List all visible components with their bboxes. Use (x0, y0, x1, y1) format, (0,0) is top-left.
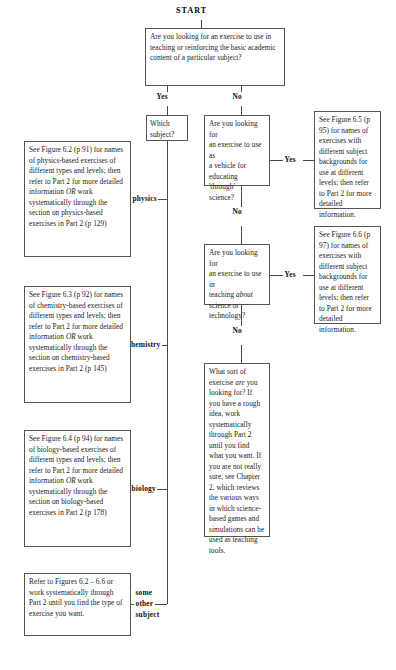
edge-q2-no-bottom (241, 226, 242, 244)
fig65-text: See Figure 6.5 (p 95) for names of exerc… (319, 115, 376, 220)
q2-line-2: an exercise to use as (209, 140, 265, 161)
edge-label-chemistry: chemistry (126, 340, 162, 349)
outcome-box-figure-6-5: See Figure 6.5 (p 95) for names of exerc… (314, 111, 381, 209)
q3-line-3-emphasis: about (236, 290, 253, 299)
edge-label-other-line-2: other (134, 599, 155, 608)
outcome-box-biology: See Figure 6.4 (p 94) for names of biolo… (24, 430, 131, 547)
which-subject-text: Which subject? (150, 119, 184, 140)
q3-line-2: an exercise to use in (209, 269, 265, 290)
question-box-teaching-about-science: Are you looking for an exercise to use i… (204, 244, 270, 305)
edge-yes-to-which (167, 106, 168, 115)
edge-label-biology: biology (130, 484, 157, 493)
edge-label-yes-3: Yes (283, 270, 297, 279)
outcome-box-figure-6-6: See Figure 6.6 (p 97) for names of exerc… (314, 226, 381, 324)
outcome-box-other-subject: Refer to Figures 6.2 – 6.6 or work syste… (24, 573, 131, 636)
physics-text-emphasis: OR (66, 187, 76, 196)
edge-subject-spine (167, 141, 168, 604)
edge-label-other-line-3: subject (134, 610, 161, 619)
start-title: START (176, 6, 207, 15)
decision-box-which-subject: Which subject? (146, 115, 188, 141)
chemistry-text-emphasis: OR (66, 332, 76, 341)
chemistry-text: See Figure 6.3 (p 92) for names of chemi… (29, 290, 126, 374)
q3-line-1: Are you looking for (209, 248, 265, 269)
edge-no-to-q2 (241, 106, 242, 115)
question-box-subject-content: Are you looking for an exercise to use i… (145, 28, 285, 86)
edge-label-no-3: No (231, 326, 243, 335)
flowchart-canvas: START Are you looking for an exercise to… (0, 0, 396, 670)
q3-line-3: teaching about (209, 290, 265, 301)
edge-label-other-line-1: some (134, 588, 154, 597)
edge-start-to-q1 (201, 20, 202, 28)
edge-q3-no-bottom (241, 345, 242, 363)
outcome-box-final-guidance: What sort of exercise are you looking fo… (204, 363, 270, 537)
outcome-box-physics: See Figure 6.2 (p 91) for names of physi… (24, 141, 131, 257)
final-text: What sort of exercise are you looking fo… (209, 367, 265, 556)
edge-label-no-2: No (231, 207, 243, 216)
q2-line-4: educating 'through' (209, 172, 265, 193)
edge-label-yes-1: Yes (155, 92, 169, 101)
final-text-emphasis: are (235, 378, 245, 387)
question-box-educating-through-science: Are you looking for an exercise to use a… (204, 115, 270, 186)
q1-text: Are you looking for an exercise to use i… (150, 32, 280, 64)
edge-label-no-1: No (231, 92, 243, 101)
final-text-part-2: you looking for? If you have a rough ide… (209, 378, 264, 555)
q3-line-3-pre: teaching (209, 290, 236, 299)
other-text: Refer to Figures 6.2 – 6.6 or work syste… (29, 577, 126, 619)
q2-line-3: a vehicle for (209, 161, 265, 172)
biology-text: See Figure 6.4 (p 94) for names of biolo… (29, 434, 126, 518)
edge-label-yes-2: Yes (283, 155, 297, 164)
q2-line-5: science? (209, 193, 265, 204)
biology-text-emphasis: OR (66, 476, 76, 485)
q3-line-5: technology? (209, 311, 265, 322)
q2-line-1: Are you looking for (209, 119, 265, 140)
physics-text: See Figure 6.2 (p 91) for names of physi… (29, 145, 126, 229)
fig66-text: See Figure 6.6 (p 97) for names of exerc… (319, 230, 376, 335)
outcome-box-chemistry: See Figure 6.3 (p 92) for names of chemi… (24, 286, 131, 403)
edge-label-physics: physics (131, 194, 158, 203)
q3-line-4: science or (209, 301, 265, 312)
